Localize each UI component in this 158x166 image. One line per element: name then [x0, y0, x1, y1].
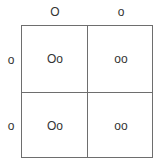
punnett-grid: Oo oo Oo oo: [21, 25, 153, 158]
genotype-cell-r2c2: oo: [88, 93, 154, 159]
genotype-cell-r1c2: oo: [88, 26, 154, 92]
column-allele-2: o: [111, 6, 131, 18]
row-allele-2: o: [1, 120, 21, 132]
row-allele-1: o: [1, 54, 21, 66]
genotype-cell-r2c1: Oo: [22, 93, 88, 159]
column-allele-1: O: [45, 6, 65, 18]
genotype-cell-r1c1: Oo: [22, 26, 88, 92]
